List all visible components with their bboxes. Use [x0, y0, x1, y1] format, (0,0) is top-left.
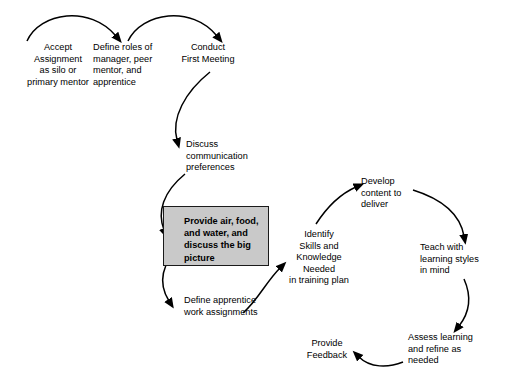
node-provide-feedback: Provide Feedback — [294, 338, 360, 361]
node-define-roles: Define roles of manager, peer mentor, an… — [93, 42, 175, 88]
connector-identify-to-develop — [316, 187, 356, 224]
node-provide-air-food-water: Provide air, food, and water, and discus… — [184, 215, 270, 264]
connector-accept-to-define — [27, 16, 116, 41]
node-teach-learning-styles: Teach with learning styles in mind — [420, 242, 500, 277]
connector-assess-to-feedback — [359, 357, 403, 366]
connector-define-to-conduct — [128, 16, 217, 41]
connector-teach-to-assess — [459, 279, 469, 326]
node-discuss-communication: Discuss communication preferences — [186, 139, 272, 174]
node-define-apprentice-work: Define apprentice work assignments — [184, 295, 278, 318]
process-flow-diagram: Accept Assignment as silo or primary men… — [0, 0, 508, 386]
node-develop-content: Develop content to deliver — [361, 176, 425, 211]
node-assess-learning: Assess learning and refine as needed — [408, 332, 496, 367]
node-identify-skills: Identify Skills and Knowledge Needed in … — [279, 229, 359, 287]
node-conduct-first-meeting: Conduct First Meeting — [168, 42, 248, 65]
connector-conduct-to-discuss — [176, 72, 210, 140]
